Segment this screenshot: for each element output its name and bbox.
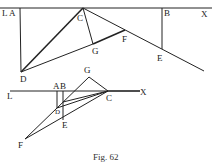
- top-label-a: A: [9, 8, 16, 18]
- figure-caption: Fig. 62: [93, 152, 119, 162]
- top-label-b: B: [164, 8, 170, 18]
- bottom-label-f: F: [18, 140, 23, 150]
- bottom-diagram: G L A B X C D E F: [7, 65, 147, 150]
- top-diagram: L A C B X G F E D: [0, 8, 212, 84]
- top-line-cg: [83, 8, 93, 44]
- bottom-label-c: C: [106, 93, 112, 103]
- top-label-d: D: [20, 74, 27, 84]
- bottom-label-b: B: [60, 81, 66, 91]
- top-label-f: F: [122, 34, 127, 44]
- bottom-label-g: G: [84, 65, 91, 75]
- top-label-l: L: [2, 8, 8, 18]
- bottom-label-d: D: [55, 108, 60, 116]
- top-line-gf: [93, 30, 125, 44]
- bottom-label-a: A: [53, 81, 60, 91]
- geometry-figure: L A C B X G F E D G L A B X C D E F Fig.…: [0, 0, 217, 167]
- top-line-dg: [21, 44, 93, 72]
- top-label-e: E: [157, 53, 163, 63]
- bottom-label-e: E: [62, 120, 68, 130]
- bottom-label-x: X: [140, 87, 147, 97]
- top-line-ce: [83, 8, 204, 71]
- top-line-cd: [21, 8, 83, 72]
- top-label-x: X: [201, 9, 208, 19]
- bottom-label-l: L: [7, 91, 13, 101]
- top-label-g: G: [92, 46, 99, 56]
- bottom-line-gc: [89, 77, 108, 91]
- top-label-c: C: [77, 13, 83, 23]
- bottom-line-cb: [63, 91, 108, 102]
- top-line-ad: [20, 8, 21, 72]
